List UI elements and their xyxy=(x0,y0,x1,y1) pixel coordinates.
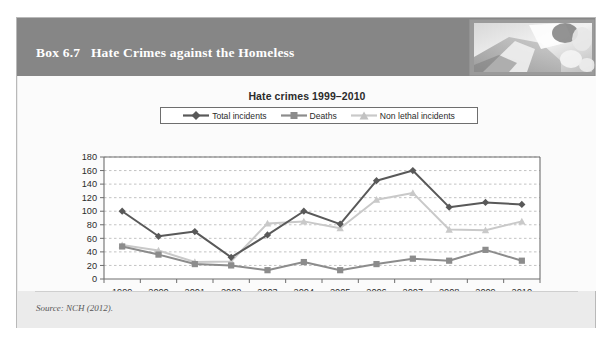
header-photo-image xyxy=(469,19,595,76)
chart-plot-area: 0204060801001201401601801999200020012002… xyxy=(18,76,596,291)
data-point-deaths-2010 xyxy=(519,258,525,264)
data-point-deaths-2008 xyxy=(446,258,452,264)
data-point-deaths-2000 xyxy=(155,252,161,258)
data-point-deaths-1999 xyxy=(119,243,125,249)
data-point-deaths-2007 xyxy=(410,256,416,262)
y-tick-label: 40 xyxy=(87,247,97,257)
y-tick-label: 100 xyxy=(82,206,97,216)
data-point-deaths-2001 xyxy=(192,261,198,267)
y-tick-label: 0 xyxy=(92,274,97,284)
footer-divider xyxy=(35,291,578,292)
y-tick-label: 180 xyxy=(82,152,97,162)
data-point-deaths-2005 xyxy=(337,267,343,273)
page-title: Box 6.7 Hate Crimes against the Homeless xyxy=(36,45,295,61)
box-footer: Source: NCH (2012). xyxy=(17,291,595,328)
data-point-deaths-2006 xyxy=(373,261,379,267)
data-point-deaths-2003 xyxy=(264,267,270,273)
y-tick-label: 120 xyxy=(82,193,97,203)
y-tick-label: 80 xyxy=(87,220,97,230)
chart-panel: Hate crimes 1999–2010 Total incidents De… xyxy=(18,76,596,291)
y-tick-label: 60 xyxy=(87,234,97,244)
box-header: Box 6.7 Hate Crimes against the Homeless xyxy=(17,18,595,76)
header-photo xyxy=(469,19,595,76)
data-point-deaths-2002 xyxy=(228,262,234,268)
page-canvas: Box 6.7 Hate Crimes against the Homeless xyxy=(0,0,614,347)
data-point-deaths-2004 xyxy=(301,259,307,265)
y-tick-label: 20 xyxy=(87,261,97,271)
source-note: Source: NCH (2012). xyxy=(36,303,113,313)
y-tick-label: 160 xyxy=(82,166,97,176)
data-point-deaths-2009 xyxy=(482,247,488,253)
textbox-panel: Box 6.7 Hate Crimes against the Homeless xyxy=(16,17,596,328)
y-tick-label: 140 xyxy=(82,179,97,189)
chart-svg: 0204060801001201401601801999200020012002… xyxy=(18,76,596,291)
